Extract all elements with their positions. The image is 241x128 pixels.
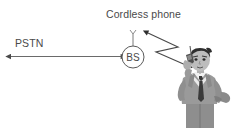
right-hand-on-hip-shape [220, 92, 230, 103]
left-eye [195, 58, 198, 61]
cordless-phone-diagram: Cordless phone PSTN BS [0, 0, 241, 128]
right-eye [203, 58, 206, 61]
handset-antenna-icon [190, 46, 191, 53]
pstn-label: PSTN [15, 37, 43, 49]
wireless-link-zigzag [148, 33, 188, 66]
diagram-title: Cordless phone [106, 8, 181, 20]
antenna-fork-icon [130, 30, 136, 34]
diagram-canvas: Cordless phone PSTN BS [0, 0, 241, 128]
cordless-phone-user-illustration [178, 46, 230, 128]
base-station-label: BS [126, 52, 140, 63]
